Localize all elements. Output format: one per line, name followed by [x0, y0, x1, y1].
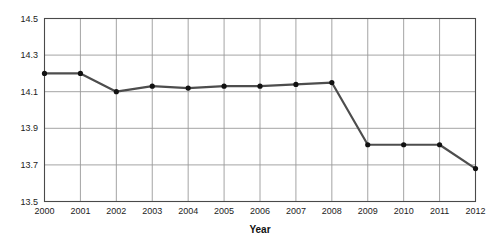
data-point-marker	[293, 82, 298, 87]
data-point-marker	[329, 80, 334, 85]
x-axis-title: Year	[230, 224, 290, 235]
y-axis-tick-label: 14.1	[4, 87, 38, 97]
x-axis-tick-label: 2005	[206, 206, 242, 216]
x-axis-tick-label: 2003	[134, 206, 170, 216]
x-axis-tick-label: 2000	[27, 206, 63, 216]
data-point-marker	[150, 84, 155, 89]
x-axis-tick-label: 2008	[314, 206, 350, 216]
x-axis-tick-label: 2012	[458, 206, 494, 216]
data-point-marker	[186, 85, 191, 90]
x-axis-tick-label: 2009	[350, 206, 386, 216]
line-chart: 14.514.314.113.913.713.5 200020012002200…	[0, 0, 502, 250]
y-axis-tick-label: 13.9	[4, 123, 38, 133]
data-point-marker	[437, 142, 442, 147]
x-axis-tick-label: 2010	[386, 206, 422, 216]
data-point-marker	[257, 84, 262, 89]
data-point-marker	[78, 71, 83, 76]
data-point-marker	[473, 166, 478, 171]
x-axis-tick-label: 2011	[422, 206, 458, 216]
x-axis-tick-label: 2001	[62, 206, 98, 216]
y-axis-tick-label: 14.3	[4, 50, 38, 60]
data-point-marker	[114, 89, 119, 94]
x-axis-tick-label: 2002	[98, 206, 134, 216]
x-axis-tick-label: 2007	[278, 206, 314, 216]
data-point-marker	[401, 142, 406, 147]
y-axis-tick-label: 13.7	[4, 160, 38, 170]
y-axis-tick-label: 14.5	[4, 14, 38, 24]
x-axis-tick-label: 2004	[170, 206, 206, 216]
data-point-marker	[221, 84, 226, 89]
y-axis-tick-label: 13.5	[4, 197, 38, 207]
x-axis-tick-label: 2006	[242, 206, 278, 216]
data-point-marker	[365, 142, 370, 147]
data-point-marker	[42, 71, 47, 76]
